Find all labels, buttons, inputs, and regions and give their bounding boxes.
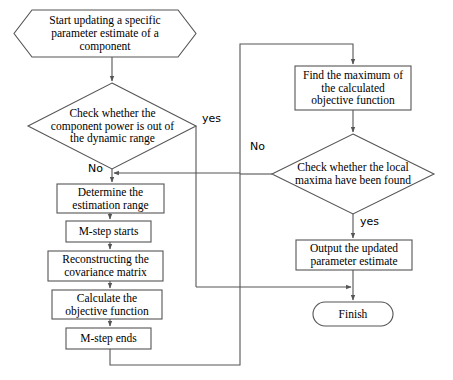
edge-label-power-no: No xyxy=(88,163,103,174)
node-start-shape xyxy=(14,10,196,57)
edge-label-maxima-yes: yes xyxy=(360,216,379,227)
node-mstep-ends-shape xyxy=(66,328,151,349)
node-find-maximum-shape xyxy=(295,66,411,110)
edge-label-maxima-no: No xyxy=(250,141,265,152)
node-decision-maxima-shape xyxy=(272,134,434,214)
node-decision-power-shape xyxy=(28,83,196,169)
flowchart-diagram: Start updating a specific parameter esti… xyxy=(0,0,453,380)
edge-label-power-yes: yes xyxy=(202,113,221,124)
node-finish-shape xyxy=(313,302,393,326)
flowchart-canvas xyxy=(0,0,453,380)
node-reconstruct-cov-shape xyxy=(48,251,163,281)
node-calculate-objective-shape xyxy=(52,290,162,319)
node-mstep-starts-shape xyxy=(66,221,151,242)
node-determine-range-shape xyxy=(57,184,164,213)
node-output-estimate-shape xyxy=(296,240,412,270)
